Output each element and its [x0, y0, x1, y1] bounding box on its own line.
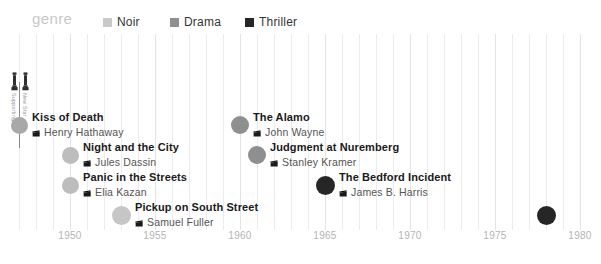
oscar-statuette-icon — [21, 72, 30, 91]
gridline-1978 — [546, 34, 547, 230]
film-label: The Bedford IncidentJames B. Harris — [339, 171, 451, 199]
film-title: Judgment at Nuremberg — [270, 141, 399, 154]
film-director-line: John Wayne — [253, 124, 324, 139]
film-director: Samuel Fuller — [147, 216, 214, 228]
film-marker[interactable] — [62, 177, 79, 194]
film-title: Panic in the Streets — [83, 171, 187, 184]
legend-swatch-thriller — [245, 18, 254, 27]
legend-label-noir: Noir — [117, 15, 140, 29]
film-title: Kiss of Death — [32, 111, 124, 124]
film-director: Jules Dassin — [95, 156, 156, 168]
film-director: James B. Harris — [351, 186, 428, 198]
x-tick-label-1955: 1955 — [135, 230, 175, 241]
legend-item-thriller[interactable]: Thriller — [245, 12, 297, 26]
clapperboard-icon — [83, 189, 91, 197]
x-tick-label-1960: 1960 — [220, 230, 260, 241]
film-label: Kiss of DeathHenry Hathaway — [32, 111, 124, 139]
x-tick-label-1950: 1950 — [50, 230, 90, 241]
award-label-new-star: New Star — [22, 93, 28, 117]
film-label: Panic in the StreetsElia Kazan — [83, 171, 187, 199]
film-director-line: Henry Hathaway — [32, 124, 124, 139]
legend-swatch-drama — [170, 18, 179, 27]
gridline-1971 — [427, 34, 428, 230]
film-timeline-chart: genre Noir Drama Thriller SupportingNew … — [0, 0, 601, 264]
clapperboard-icon — [270, 159, 278, 167]
clapperboard-icon — [253, 129, 261, 137]
legend-title: genre — [32, 10, 72, 27]
film-director: Elia Kazan — [95, 186, 147, 198]
gridline-1968 — [376, 34, 377, 230]
gridline-1974 — [478, 34, 479, 230]
film-title: Pickup on South Street — [135, 201, 258, 214]
clapperboard-icon — [339, 189, 347, 197]
gridline-1977 — [529, 34, 530, 230]
film-director-line: James B. Harris — [339, 184, 451, 199]
legend-swatch-noir — [103, 18, 112, 27]
gridline-1965 — [325, 34, 326, 230]
film-director: Henry Hathaway — [44, 126, 124, 138]
gridline-1980 — [580, 34, 581, 230]
legend-label-drama: Drama — [184, 15, 221, 29]
gridline-1976 — [512, 34, 513, 230]
film-director: John Wayne — [265, 126, 324, 138]
film-marker[interactable] — [248, 146, 266, 164]
x-tick-label-1965: 1965 — [305, 230, 345, 241]
gridline-1973 — [461, 34, 462, 230]
gridline-1970 — [410, 34, 411, 230]
film-marker[interactable] — [316, 176, 335, 195]
gridline-1969 — [393, 34, 394, 230]
legend-label-thriller: Thriller — [259, 15, 297, 29]
oscar-statuette-icon — [10, 72, 19, 91]
clapperboard-icon — [32, 129, 40, 137]
award-connector-line — [19, 82, 20, 148]
film-director-line: Stanley Kramer — [270, 154, 399, 169]
x-tick-label-1975: 1975 — [475, 230, 515, 241]
clapperboard-icon — [135, 219, 143, 227]
x-tick-label-1980: 1980 — [560, 230, 600, 241]
x-axis: 1950195519601965197019751980 — [0, 230, 601, 248]
gridline-1966 — [342, 34, 343, 230]
gridline-1967 — [359, 34, 360, 230]
legend-item-noir[interactable]: Noir — [103, 12, 140, 26]
film-marker[interactable] — [537, 206, 556, 225]
film-director-line: Samuel Fuller — [135, 214, 258, 229]
film-label: Judgment at NurembergStanley Kramer — [270, 141, 399, 169]
film-director-line: Jules Dassin — [83, 154, 179, 169]
legend-item-drama[interactable]: Drama — [170, 12, 221, 26]
film-marker[interactable] — [11, 117, 28, 134]
chart-legend: genre Noir Drama Thriller — [0, 0, 601, 34]
clapperboard-icon — [83, 159, 91, 167]
gridline-1979 — [563, 34, 564, 230]
x-tick-label-1970: 1970 — [390, 230, 430, 241]
film-label: The AlamoJohn Wayne — [253, 111, 324, 139]
film-title: Night and the City — [83, 141, 179, 154]
film-marker[interactable] — [112, 206, 131, 225]
gridline-1972 — [444, 34, 445, 230]
film-director-line: Elia Kazan — [83, 184, 187, 199]
film-title: The Alamo — [253, 111, 324, 124]
film-marker[interactable] — [62, 147, 79, 164]
film-label: Night and the CityJules Dassin — [83, 141, 179, 169]
film-director: Stanley Kramer — [282, 156, 356, 168]
plot-area: SupportingNew Star Kiss of DeathHenry Ha… — [0, 34, 601, 264]
film-label: Pickup on South StreetSamuel Fuller — [135, 201, 258, 229]
film-marker[interactable] — [231, 116, 249, 134]
film-title: The Bedford Incident — [339, 171, 451, 184]
gridline-1975 — [495, 34, 496, 230]
